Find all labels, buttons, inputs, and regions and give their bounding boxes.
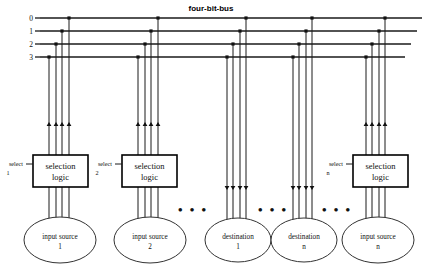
- group-input-source-1-node-label-line1: input source: [42, 233, 77, 241]
- group-input-source-1-tap-dot-bit-3: [47, 55, 50, 58]
- bus-index-labels-group: 0123: [29, 14, 33, 62]
- bus-index-label-1: 1: [29, 27, 33, 36]
- group-destination-n-tap-dot-bit-0: [310, 16, 313, 19]
- group-input-source-2-arrowhead-bit-2: [143, 122, 148, 126]
- group-input-source-1-node-label-line2: 1: [58, 243, 62, 251]
- group-input-source-n-tap-dot-bit-3: [364, 55, 367, 58]
- selection-logic-boxes-group: selectionlogicselect1selectionlogicselec…: [6, 155, 408, 187]
- group-destination-1-arrowhead-bit-2: [231, 186, 236, 190]
- group-input-source-1-arrowhead-bit-2: [54, 122, 59, 126]
- group-input-source-1-arrowhead-bit-0: [67, 122, 72, 126]
- bus-index-label-0: 0: [29, 14, 33, 23]
- bus-lines-group: [35, 18, 422, 57]
- diagram-title: four-bit-bus: [189, 4, 234, 13]
- group-destination-1-tap-dot-bit-2: [231, 42, 234, 45]
- group-destination-1-tap-dot-bit-3: [225, 55, 228, 58]
- ellipsis-1: • • •: [178, 202, 208, 217]
- group-input-source-n-tap-dot-bit-0: [383, 16, 386, 19]
- group-input-source-1-tap-dot-bit-1: [60, 29, 63, 32]
- group-input-source-2-node-label-line1: input source: [132, 233, 167, 241]
- group-input-source-1-selection-logic-label-line1: selection: [45, 161, 76, 171]
- group-input-source-n-arrowhead-bit-3: [364, 122, 369, 126]
- group-input-source-2-tap-dot-bit-1: [149, 29, 152, 32]
- group-destination-n-node-label-line2: n: [302, 243, 306, 251]
- group-input-source-n-arrowhead-bit-0: [383, 122, 388, 126]
- group-destination-n-node-label-line1: destination: [288, 233, 320, 241]
- group-input-source-1-tap-dot-bit-0: [67, 16, 70, 19]
- group-input-source-2-select-label: select: [98, 160, 112, 167]
- group-destination-n-arrowhead-bit-0: [310, 186, 315, 190]
- group-destination-1-tap-dot-bit-1: [238, 29, 241, 32]
- bus-tap-dots-group: [47, 16, 386, 58]
- vertical-wires-group: [49, 18, 385, 220]
- group-input-source-n-tap-dot-bit-2: [370, 42, 373, 45]
- bus-index-label-3: 3: [29, 53, 33, 62]
- group-destination-1-node-label-line1: destination: [222, 233, 254, 241]
- bus-index-label-2: 2: [29, 40, 33, 49]
- group-input-source-2-arrowhead-bit-0: [156, 122, 161, 126]
- group-input-source-2-arrowhead-bit-1: [149, 122, 154, 126]
- wire-arrowheads-group: [47, 122, 388, 190]
- four-bit-bus-diagram: four-bit-bus 0123 selectionlogicselect1s…: [0, 0, 427, 268]
- group-destination-n-arrowhead-bit-1: [304, 186, 309, 190]
- group-input-source-1-tap-dot-bit-2: [54, 42, 57, 45]
- group-input-source-n-selection-logic-label-line1: selection: [365, 161, 396, 171]
- group-destination-n-tap-dot-bit-3: [291, 55, 294, 58]
- group-destination-1-tap-dot-bit-0: [244, 16, 247, 19]
- group-input-source-2-selection-logic-label-line1: selection: [134, 161, 165, 171]
- group-input-source-n-arrowhead-bit-1: [377, 122, 382, 126]
- group-input-source-1-arrowhead-bit-1: [60, 122, 65, 126]
- group-destination-1-arrowhead-bit-3: [225, 186, 230, 190]
- group-input-source-n-select-index: n: [326, 169, 329, 176]
- group-input-source-2-selection-logic-label-line2: logic: [141, 172, 158, 182]
- group-destination-n-tap-dot-bit-1: [304, 29, 307, 32]
- group-input-source-2-tap-dot-bit-0: [156, 16, 159, 19]
- ellipsis-3: • • •: [322, 202, 352, 217]
- group-destination-1-arrowhead-bit-1: [238, 186, 243, 190]
- group-input-source-2-select-index: 2: [95, 169, 98, 176]
- group-input-source-2-arrowhead-bit-3: [136, 122, 141, 126]
- group-destination-1-arrowhead-bit-0: [244, 186, 249, 190]
- group-input-source-1-select-label: select: [9, 160, 23, 167]
- group-input-source-n-select-label: select: [329, 160, 343, 167]
- group-input-source-n-node-label-line2: n: [376, 243, 380, 251]
- endpoint-nodes-group: input source1input source2destination1de…: [24, 217, 414, 263]
- group-input-source-1-arrowhead-bit-3: [47, 122, 52, 126]
- group-input-source-1-select-index: 1: [6, 169, 9, 176]
- group-input-source-2-tap-dot-bit-2: [143, 42, 146, 45]
- group-input-source-2-tap-dot-bit-3: [136, 55, 139, 58]
- group-input-source-n-selection-logic-label-line2: logic: [372, 172, 389, 182]
- group-input-source-2-node-label-line2: 2: [148, 243, 152, 251]
- group-input-source-n-node-label-line1: input source: [360, 233, 395, 241]
- group-input-source-n-tap-dot-bit-1: [377, 29, 380, 32]
- group-destination-n-arrowhead-bit-2: [297, 186, 302, 190]
- group-input-source-n-arrowhead-bit-2: [370, 122, 375, 126]
- ellipsis-markers-group: • • •• • •• • •: [178, 202, 352, 217]
- group-destination-1-node-label-line2: 1: [236, 243, 240, 251]
- group-input-source-1-selection-logic-label-line2: logic: [52, 172, 69, 182]
- group-destination-n-tap-dot-bit-2: [297, 42, 300, 45]
- ellipsis-2: • • •: [258, 202, 288, 217]
- group-destination-n-arrowhead-bit-3: [291, 186, 296, 190]
- bus-diagram-canvas: four-bit-bus 0123 selectionlogicselect1s…: [0, 0, 427, 268]
